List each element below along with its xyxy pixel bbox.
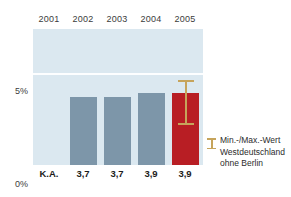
error-bar-min-cap: [178, 123, 194, 125]
bar-2003: [104, 97, 131, 165]
value-label-2002: 3,7: [66, 168, 100, 179]
bar-2002: [70, 97, 97, 165]
legend-line-3: ohne Berlin: [220, 158, 291, 170]
legend-line-1: Min.-/Max.-Wert: [220, 135, 291, 147]
value-label-2001: K.A.: [32, 168, 66, 179]
error-bar-2005: [174, 80, 198, 125]
y-axis-label-0-percent: 0%: [2, 179, 28, 189]
year-label-2005: 2005: [168, 14, 202, 24]
bar-2004: [138, 93, 165, 165]
error-bar-stem: [185, 80, 187, 125]
gridline-5-percent: [33, 73, 203, 75]
value-label-2003: 3,7: [100, 168, 134, 179]
legend-line-2: Westdeutschland: [220, 147, 291, 159]
value-label-2004: 3,9: [134, 168, 168, 179]
year-label-2004: 2004: [134, 14, 168, 24]
value-label-2005: 3,9: [168, 168, 202, 179]
year-label-2002: 2002: [66, 14, 100, 24]
y-axis-label-5-percent: 5%: [2, 86, 28, 96]
legend-cap-bottom: [207, 148, 216, 150]
bar-chart: 2001 2002 2003 2004 2005 5% 0% K.A. 3,7 …: [0, 0, 291, 197]
plot-area: [33, 29, 203, 165]
year-label-2001: 2001: [32, 14, 66, 24]
legend-text-block: Min.-/Max.-Wert Westdeutschland ohne Ber…: [220, 135, 291, 170]
error-bar-icon: [207, 138, 216, 149]
year-label-2003: 2003: [100, 14, 134, 24]
